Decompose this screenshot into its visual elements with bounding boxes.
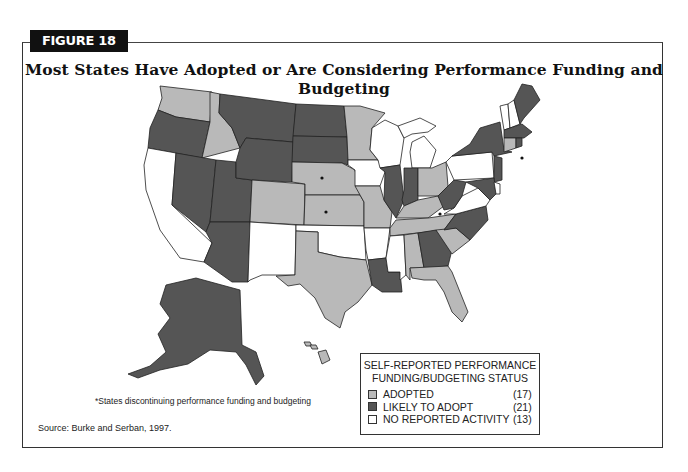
no-activity-swatch-icon bbox=[368, 415, 377, 424]
discontinuing-marker-KY bbox=[438, 212, 441, 215]
state-RI bbox=[516, 138, 522, 148]
state-FL bbox=[410, 266, 468, 322]
source-citation: Source: Burke and Serban, 1997. bbox=[38, 423, 172, 433]
state-NY bbox=[452, 122, 512, 156]
adopted-swatch-icon bbox=[368, 390, 377, 399]
state-NM bbox=[248, 222, 296, 282]
legend-item-no-reported-activity: NO REPORTED ACTIVITY (13) bbox=[368, 413, 539, 426]
discontinuing-marker-KS bbox=[324, 210, 327, 213]
state-AR bbox=[364, 228, 390, 260]
discontinuing-marker-NE bbox=[320, 176, 323, 179]
state-AZ bbox=[204, 222, 250, 282]
legend-item-likely-to-adopt: LIKELY TO ADOPT (21) bbox=[368, 401, 539, 414]
likely-to-adopt-swatch-icon bbox=[368, 402, 377, 411]
state-IN bbox=[402, 168, 418, 206]
state-ND bbox=[293, 104, 347, 137]
state-CT bbox=[504, 138, 516, 152]
legend-item-adopted: ADOPTED (17) bbox=[368, 388, 539, 401]
state-HI bbox=[318, 350, 330, 364]
state-CO bbox=[250, 180, 305, 225]
state-HI-3 bbox=[310, 345, 318, 349]
state-MI bbox=[398, 118, 436, 138]
footnote: *States discontinuing performance fundin… bbox=[95, 396, 311, 406]
state-NJ bbox=[494, 156, 502, 182]
state-SD bbox=[292, 136, 348, 165]
state-MI-lower bbox=[410, 136, 436, 168]
discontinuing-marker-CT bbox=[520, 156, 523, 159]
state-WY bbox=[236, 138, 293, 182]
state-AK bbox=[128, 278, 264, 385]
legend-title: SELF-REPORTED PERFORMANCE FUNDING/BUDGET… bbox=[361, 359, 539, 385]
legend: SELF-REPORTED PERFORMANCE FUNDING/BUDGET… bbox=[360, 353, 540, 435]
state-KS bbox=[304, 195, 364, 226]
